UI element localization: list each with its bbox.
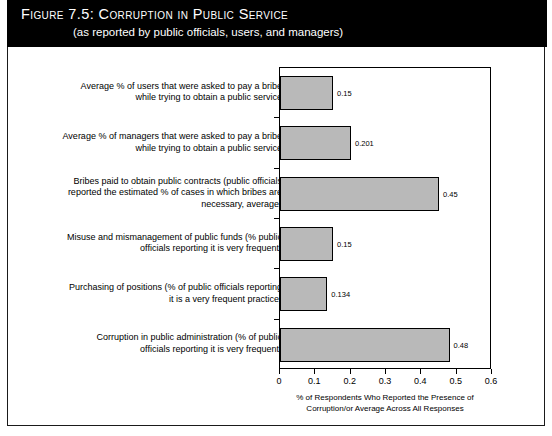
category-label: Average % of managers that were asked to…	[54, 131, 282, 154]
x-axis-title: % of Respondents Who Reported the Presen…	[279, 393, 491, 414]
bar-row: 0.48	[280, 320, 490, 370]
x-axis-tick	[420, 369, 421, 374]
category-label: Misuse and mismanagement of public funds…	[54, 232, 282, 255]
category-label: Average % of users that were asked to pa…	[54, 81, 282, 104]
bar	[280, 277, 327, 311]
bar	[280, 328, 450, 362]
bar	[280, 76, 333, 110]
figure-title: Figure 7.5: Corruption in Public Service	[21, 6, 288, 22]
bar-value-label: 0.45	[443, 190, 458, 199]
bar-row: 0.15	[280, 219, 490, 269]
bar-row: 0.45	[280, 169, 490, 219]
category-label-line: officials reporting it is very frequent)	[54, 344, 282, 356]
bar-value-label: 0.201	[355, 139, 374, 148]
category-label-line: necessary, average)	[54, 199, 282, 211]
x-axis-title-line: Corruption/or Average Across All Respons…	[279, 404, 491, 415]
x-axis-tick	[279, 369, 280, 374]
chart-area: Average % of users that were asked to pa…	[8, 48, 544, 425]
figure-subtitle: (as reported by public officials, users,…	[73, 26, 343, 38]
x-axis-tick-label: 0.5	[441, 376, 471, 386]
category-label-line: reported the estimated % of cases in whi…	[54, 187, 282, 199]
category-label-line: while trying to obtain a public service	[54, 143, 282, 155]
bar-value-label: 0.134	[331, 290, 350, 299]
category-label: Corruption in public administration (% o…	[54, 332, 282, 355]
x-axis-tick-label: 0.1	[299, 376, 329, 386]
category-label-line: officials reporting it is very frequent)	[54, 243, 282, 255]
bar-value-label: 0.48	[454, 341, 469, 350]
x-axis-title-line: % of Respondents Who Reported the Presen…	[279, 393, 491, 404]
category-label-line: Average % of managers that were asked to…	[54, 131, 282, 143]
bar	[280, 126, 351, 160]
x-axis-tick	[385, 369, 386, 374]
x-axis-tick	[314, 369, 315, 374]
bar-row: 0.201	[280, 118, 490, 168]
category-label-line: Purchasing of positions (% of public off…	[54, 282, 282, 294]
bar-row: 0.134	[280, 269, 490, 319]
category-label-line: Bribes paid to obtain public contracts (…	[54, 176, 282, 188]
bar-value-label: 0.15	[337, 240, 352, 249]
category-label-line: while trying to obtain a public service	[54, 92, 282, 104]
category-label: Purchasing of positions (% of public off…	[54, 282, 282, 305]
category-label-line: Corruption in public administration (% o…	[54, 332, 282, 344]
x-axis-tick-label: 0	[264, 376, 294, 386]
category-label-line: Misuse and mismanagement of public funds…	[54, 232, 282, 244]
x-axis-tick-label: 0.2	[335, 376, 365, 386]
x-axis-tick	[491, 369, 492, 374]
figure-header-banner: Figure 7.5: Corruption in Public Service…	[7, 0, 547, 47]
bar-value-label: 0.15	[337, 89, 352, 98]
plot-area: 0.150.2010.450.150.1340.48	[279, 67, 491, 369]
category-label: Bribes paid to obtain public contracts (…	[54, 176, 282, 211]
bar	[280, 227, 333, 261]
category-label-line: Average % of users that were asked to pa…	[54, 81, 282, 93]
x-axis-tick	[456, 369, 457, 374]
bar-row: 0.15	[280, 68, 490, 118]
x-axis-tick	[350, 369, 351, 374]
category-label-line: it is a very frequent practice)	[54, 294, 282, 306]
x-axis-tick-label: 0.4	[405, 376, 435, 386]
x-axis-tick-label: 0.6	[476, 376, 506, 386]
bar	[280, 177, 439, 211]
x-axis-tick-label: 0.3	[370, 376, 400, 386]
figure-container: Figure 7.5: Corruption in Public Service…	[7, 0, 545, 426]
